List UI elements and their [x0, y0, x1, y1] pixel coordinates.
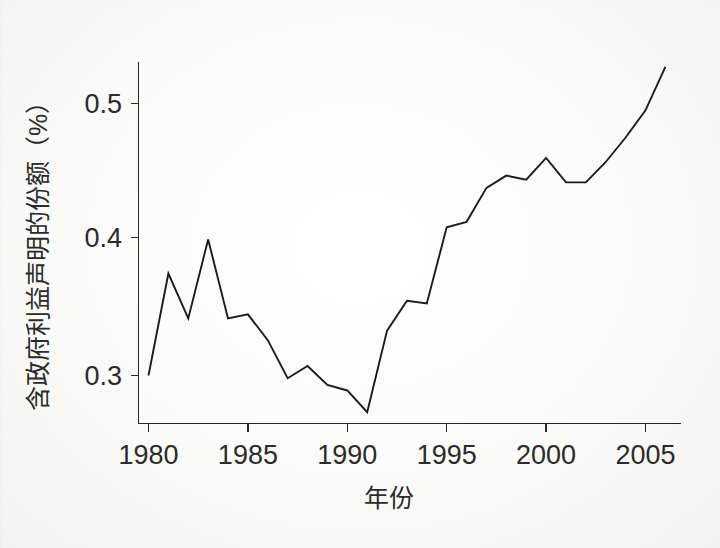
chart-figure: 0.5 0.4 0.3 1980 1985 1990 1995 2000 200…	[0, 0, 720, 548]
x-tick-label-5: 2005	[615, 440, 675, 470]
x-axis-title: 年份	[364, 484, 414, 512]
y-axis-title: 含政府利益声明的份额（%）	[24, 89, 52, 411]
x-tick-label-3: 1995	[417, 440, 477, 470]
x-tick-label-4: 2000	[516, 440, 576, 470]
x-tick-label-1: 1985	[218, 440, 278, 470]
x-tick-label-2: 1990	[317, 440, 377, 470]
y-tick-label-0: 0.5	[84, 89, 122, 119]
y-tick-label-1: 0.4	[84, 223, 122, 253]
x-axis-ticks	[149, 424, 646, 433]
x-axis-tick-labels: 1980 1985 1990 1995 2000 2005	[118, 440, 675, 470]
y-axis-tick-labels: 0.5 0.4 0.3	[84, 89, 122, 391]
x-tick-label-0: 1980	[118, 440, 178, 470]
line-chart-plot: 0.5 0.4 0.3 1980 1985 1990 1995 2000 200…	[0, 0, 720, 548]
y-axis-ticks	[131, 104, 139, 376]
y-tick-label-2: 0.3	[84, 361, 122, 391]
data-series-line	[149, 67, 666, 412]
